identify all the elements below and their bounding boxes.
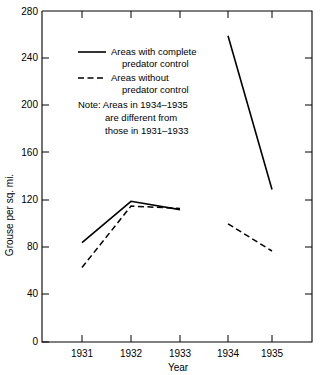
x-tick-label-1931: 1931: [71, 348, 94, 359]
note-line-1: Note: Areas in 1934–1935: [78, 99, 188, 110]
note-line-2: are different from: [105, 112, 177, 123]
series-solid-segment-1934-1935: [228, 36, 272, 190]
x-tick-label-1932: 1932: [120, 348, 143, 359]
series-without-predator-control: [82, 206, 272, 267]
chart-legend: Areas with complete predator control Are…: [78, 46, 197, 95]
legend-label-solid-line1: Areas with complete: [111, 46, 197, 57]
y-axis-ticks: [42, 58, 49, 342]
chart-figure: 0 40 80 120 160 200 240 280 1931: [0, 0, 325, 375]
y-axis-title: Grouse per sq. mi.: [4, 174, 15, 256]
x-axis-ticks-top: [82, 11, 272, 18]
x-axis-title: Year: [168, 362, 189, 373]
legend-label-dashed-line2: predator control: [122, 84, 189, 95]
y-tick-label-160: 160: [21, 147, 38, 158]
series-dashed-segment-1931-1933: [82, 206, 180, 267]
x-axis-ticks: [82, 335, 272, 342]
y-tick-label-40: 40: [27, 288, 39, 299]
legend-label-solid-line2: predator control: [122, 58, 189, 69]
chart-note-annotation: Note: Areas in 1934–1935 are different f…: [78, 99, 188, 136]
y-tick-label-240: 240: [21, 52, 38, 63]
y-tick-label-80: 80: [27, 241, 39, 252]
y-axis-ticks-right: [305, 58, 312, 294]
grouse-population-line-chart: 0 40 80 120 160 200 240 280 1931: [0, 0, 325, 375]
x-tick-label-1935: 1935: [261, 348, 284, 359]
legend-label-dashed-line1: Areas without: [111, 72, 169, 83]
note-line-3: those in 1931–1933: [105, 125, 188, 136]
y-axis-tick-labels: 0 40 80 120 160 200 240 280: [21, 6, 38, 347]
x-axis-tick-labels: 1931 1932 1933 1934 1935: [71, 348, 284, 359]
y-tick-label-200: 200: [21, 99, 38, 110]
x-tick-label-1933: 1933: [169, 348, 192, 359]
x-tick-label-1934: 1934: [217, 348, 240, 359]
y-tick-label-280: 280: [21, 6, 38, 17]
y-tick-label-120: 120: [21, 194, 38, 205]
series-solid-segment-1931-1933: [82, 201, 180, 242]
series-dashed-segment-1934-1935: [228, 224, 272, 251]
y-tick-label-0: 0: [32, 336, 38, 347]
